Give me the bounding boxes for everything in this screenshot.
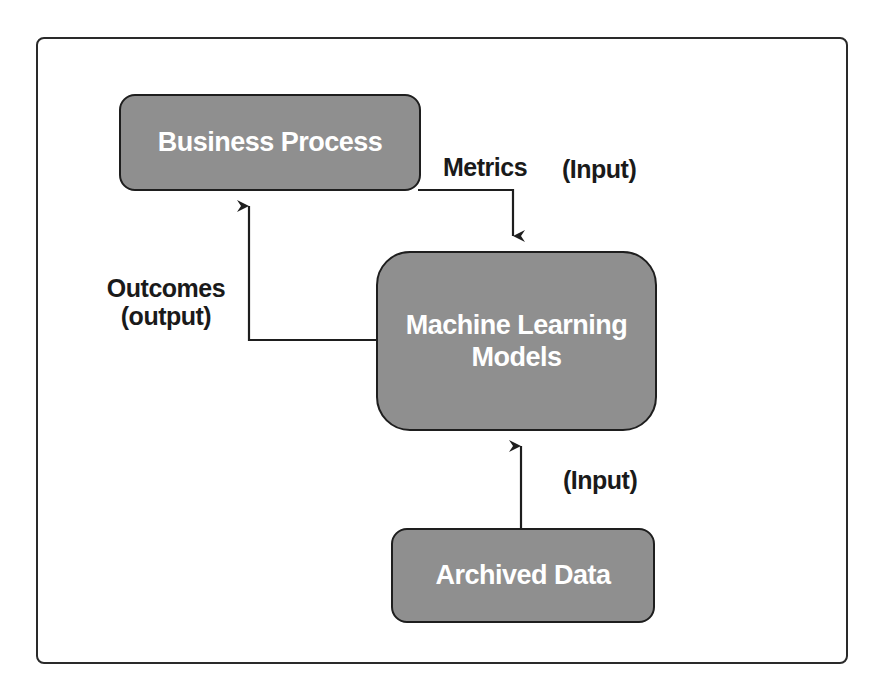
metrics-input-label: (Input)	[562, 156, 636, 184]
metrics-label: Metrics	[443, 154, 527, 182]
ml-models-label-line2: Models	[406, 341, 628, 373]
outcomes-label-line1: Outcomes	[104, 275, 228, 303]
archived-data-label: Archived Data	[435, 559, 610, 591]
archived-data-node: Archived Data	[391, 528, 655, 623]
business-process-label: Business Process	[158, 126, 383, 158]
ml-models-node: Machine Learning Models	[376, 251, 657, 431]
archived-input-label: (Input)	[563, 467, 637, 495]
outcomes-label: Outcomes (output)	[104, 275, 228, 330]
metrics-connector	[418, 190, 513, 236]
outcomes-label-line2: (output)	[104, 303, 228, 331]
ml-models-label-line1: Machine Learning	[406, 309, 628, 341]
outcomes-connector	[249, 206, 377, 340]
business-process-node: Business Process	[119, 94, 421, 191]
